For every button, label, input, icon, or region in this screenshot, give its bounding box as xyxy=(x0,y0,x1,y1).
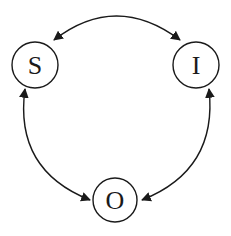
edge-s-o xyxy=(24,89,90,200)
diagram-canvas: S I O xyxy=(0,0,231,236)
edge-i-o xyxy=(142,89,210,200)
node-i: I xyxy=(173,42,219,88)
node-o: O xyxy=(93,178,137,222)
node-o-label: O xyxy=(106,186,125,215)
cycle-diagram: S I O xyxy=(0,0,231,236)
node-s: S xyxy=(12,42,58,88)
node-i-label: I xyxy=(192,51,201,80)
edge-s-i xyxy=(54,16,180,40)
node-s-label: S xyxy=(28,51,42,80)
